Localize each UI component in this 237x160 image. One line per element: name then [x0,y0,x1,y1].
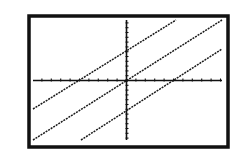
calculator-graph-screen [0,0,237,160]
origin-point [125,79,128,82]
